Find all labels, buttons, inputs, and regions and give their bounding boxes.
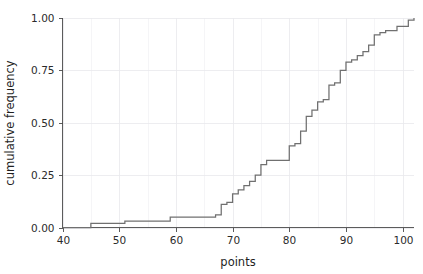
x-tick-label: 80 xyxy=(283,234,296,246)
y-tick-label: 1.00 xyxy=(31,12,54,24)
x-tick-label: 70 xyxy=(227,234,240,246)
y-tick-label: 0.50 xyxy=(31,117,54,129)
x-tick-label: 40 xyxy=(57,234,70,246)
y-axis-title: cumulative frequency xyxy=(3,60,17,185)
x-tick-label: 60 xyxy=(170,234,183,246)
x-tick-label: 90 xyxy=(340,234,353,246)
y-tick-label: 0.25 xyxy=(31,169,54,181)
y-tick-label: 0.00 xyxy=(31,222,54,234)
plot-canvas: 405060708090100 0.000.250.500.751.00 poi… xyxy=(0,0,423,274)
ecdf-chart-figure: 405060708090100 0.000.250.500.751.00 poi… xyxy=(0,0,423,274)
y-tick-label: 0.75 xyxy=(31,64,54,76)
x-axis-title: points xyxy=(220,255,255,269)
x-tick-label: 100 xyxy=(393,234,413,246)
x-tick-label: 50 xyxy=(113,234,126,246)
